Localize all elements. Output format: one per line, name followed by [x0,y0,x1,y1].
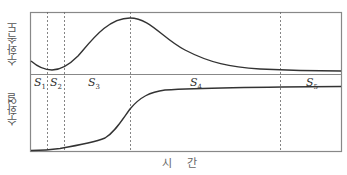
stage-label-s2: S2 [50,77,62,91]
stage-boundaries [48,12,281,151]
y-axis-label-rate: 수화속도 [8,22,19,66]
stage-label-s1: S1 [34,77,46,91]
stage-label-s4: S4 [190,77,202,91]
stage-label-s3: S3 [88,77,100,91]
stage-label-s5: S5 [306,77,318,91]
hydration-heat-curve [31,87,341,151]
hydration-rate-curve [31,18,341,71]
x-axis-label: 시 간 [162,154,204,170]
plot-frame [31,13,342,152]
y-axis-label-heat: 수화열 [8,93,19,126]
